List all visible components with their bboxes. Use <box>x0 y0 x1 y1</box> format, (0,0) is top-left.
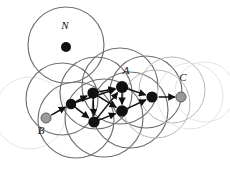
node-label-A: A <box>122 64 130 76</box>
node-label-C: C <box>179 71 187 83</box>
terminal-node <box>176 92 186 102</box>
node-label-B: B <box>38 124 45 136</box>
coverage-ball <box>157 63 223 129</box>
graph-node <box>146 91 157 102</box>
graph-node <box>87 87 98 98</box>
terminal-node <box>41 113 51 123</box>
graph-node <box>66 99 76 109</box>
graph-edge <box>76 108 89 118</box>
graph-edge <box>93 100 94 116</box>
figure-canvas: NABC <box>0 0 230 174</box>
graph-node <box>88 116 99 127</box>
graph-node <box>116 81 128 93</box>
node-label-N: N <box>60 19 69 31</box>
graph-edge <box>51 107 65 115</box>
coverage-balls-layer <box>0 7 230 158</box>
graph-svg: NABC <box>0 0 230 174</box>
graph-edge <box>129 89 146 95</box>
graph-node <box>61 42 71 52</box>
graph-node <box>116 105 128 117</box>
